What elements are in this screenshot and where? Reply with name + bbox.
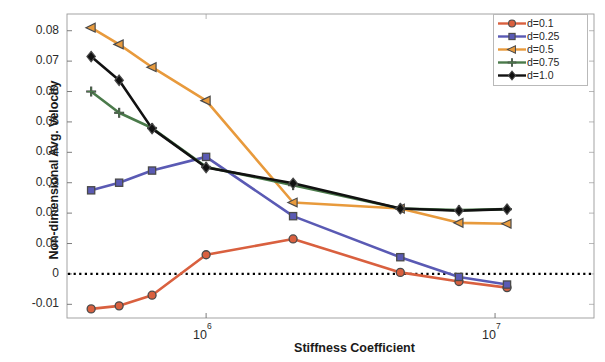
data-point-marker [289,235,297,243]
y-tick-label: -0.01 [11,296,59,310]
x-tick-exponent: 7 [496,321,501,331]
data-point-marker [396,268,404,276]
y-tick-label: 0.05 [11,114,59,128]
legend-label: d=0.75 [527,57,559,68]
data-point-marker [88,187,95,194]
data-point-marker [148,291,156,299]
y-tick-label: 0 [11,266,59,280]
y-tick-label: 0.08 [11,23,59,37]
data-point-marker [115,302,123,310]
x-tick-mantissa: 10 [193,328,207,342]
x-axis-label-text: Stiffness Coefficient [294,341,415,355]
data-point-marker [202,251,210,259]
legend-item-d-1-0[interactable]: d=1.0 [497,69,583,82]
legend-swatch [497,17,527,30]
legend-item-d-0-75[interactable]: d=0.75 [497,56,583,69]
legend-label: d=0.1 [527,18,554,29]
data-point-marker [454,218,463,227]
x-tick-label: 107 [482,326,501,342]
data-point-marker [290,213,297,220]
legend-label: d=0.25 [527,31,559,42]
x-tick-label: 106 [193,326,212,342]
legend-item-d-0-1[interactable]: d=0.1 [497,17,583,30]
data-point-marker [455,273,462,280]
figure: Non-dimensional Avg. Velocity Stiffness … [0,0,605,362]
legend-label: d=0.5 [527,44,554,55]
data-point-marker [509,33,515,39]
legend-item-d-0-5[interactable]: d=0.5 [497,43,583,56]
legend-swatch [497,30,527,43]
data-point-marker [203,153,210,160]
legend-swatch [497,43,527,56]
y-tick-label: 0.06 [11,84,59,98]
y-tick-label: 0.04 [11,144,59,158]
y-tick-label: 0.02 [11,205,59,219]
series-line-d-0-75 [91,92,507,211]
y-tick-label: 0.01 [11,236,59,250]
data-point-marker [397,254,404,261]
data-point-marker [502,219,511,228]
data-point-marker [86,23,95,32]
legend-swatch [497,56,527,69]
legend: d=0.1d=0.25d=0.5d=0.75d=1.0 [493,14,588,86]
y-tick-label: 0.03 [11,175,59,189]
y-tick-label: 0.07 [11,53,59,67]
series-line-d-0-25 [91,157,507,285]
data-point-marker [503,204,511,214]
data-point-marker [508,71,515,80]
data-point-marker [87,305,95,313]
x-tick-exponent: 6 [207,321,212,331]
data-point-marker [148,167,155,174]
legend-item-d-0-25[interactable]: d=0.25 [497,30,583,43]
x-tick-mantissa: 10 [482,328,496,342]
x-axis-label: Stiffness Coefficient [0,341,605,355]
data-point-marker [508,46,516,54]
data-point-marker [508,58,517,67]
data-point-marker [503,281,510,288]
data-point-marker [116,179,123,186]
legend-swatch [497,69,527,82]
legend-label: d=1.0 [527,70,554,81]
data-point-marker [509,20,516,27]
data-point-marker [455,205,463,215]
